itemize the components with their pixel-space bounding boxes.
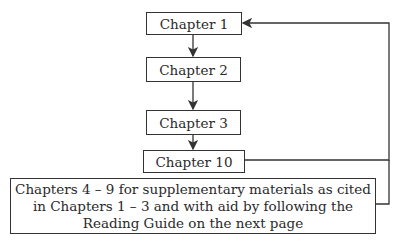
line-supp-loop — [376, 160, 389, 204]
node-chapter-2: Chapter 2 — [146, 57, 241, 82]
node-chapter-3: Chapter 3 — [146, 110, 241, 135]
supp-line-3: Reading Guide on the next page — [83, 215, 303, 232]
node-label: Chapter 2 — [159, 62, 227, 78]
node-label: Chapter 10 — [155, 154, 232, 170]
arrow-ch10-ch1 — [243, 23, 389, 160]
supp-line-1: Chapters 4 – 9 for supplementary materia… — [15, 181, 371, 198]
node-supplementary-chapters: Chapters 4 – 9 for supplementary materia… — [10, 178, 376, 234]
supp-line-2: in Chapters 1 – 3 and with aid by follow… — [33, 198, 353, 215]
node-chapter-10: Chapter 10 — [143, 150, 245, 173]
node-label: Chapter 1 — [160, 16, 228, 32]
node-chapter-1: Chapter 1 — [146, 12, 242, 35]
node-label: Chapter 3 — [159, 115, 227, 131]
